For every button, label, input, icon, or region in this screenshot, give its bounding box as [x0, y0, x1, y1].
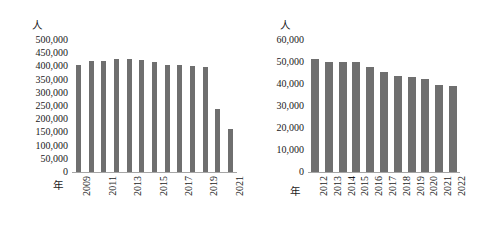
bar [89, 61, 94, 172]
x-tick-label: 2019 [209, 176, 219, 196]
bar [228, 129, 233, 172]
bar [366, 67, 374, 172]
x-tick-label: 2013 [133, 176, 143, 196]
bar [408, 77, 416, 172]
y-tick-label: 50,000 [41, 154, 69, 164]
bar [139, 60, 144, 172]
x-tick-label: 2015 [159, 176, 169, 196]
bar [380, 72, 388, 172]
figure-container: 人 500,000450,000400,000350,000300,000250… [0, 0, 499, 235]
x-tick-label: 2018 [402, 176, 412, 196]
x-tick-label: 2015 [360, 176, 370, 196]
plot-area-right [308, 40, 460, 172]
bar [152, 62, 157, 172]
bar-chart-right: 人 60,00050,00040,00030,00020,00010,0000 … [250, 0, 499, 235]
bar-chart-left: 人 500,000450,000400,000350,000300,000250… [0, 0, 250, 235]
y-axis-tick-labels-right: 60,00050,00040,00030,00020,00010,0000 [250, 0, 304, 235]
bar [165, 65, 170, 172]
bar [339, 62, 347, 172]
x-tick-label: 2021 [235, 176, 245, 196]
bar [177, 65, 182, 172]
x-tick-label: 2017 [184, 176, 194, 196]
x-axis-tick-labels-right: 2012201320142015201620172018201920202021… [308, 176, 460, 226]
y-tick-label: 30,000 [277, 101, 305, 111]
y-tick-label: 60,000 [277, 35, 305, 45]
x-tick-label: 2014 [347, 176, 357, 196]
bar [127, 59, 132, 172]
y-tick-label: 450,000 [36, 48, 69, 58]
y-tick-label: 10,000 [277, 145, 305, 155]
y-tick-label: 0 [299, 167, 304, 177]
x-tick-label: 2011 [108, 176, 118, 196]
y-tick-label: 0 [63, 167, 68, 177]
x-tick-label: 2013 [333, 176, 343, 196]
y-tick-label: 100,000 [36, 141, 69, 151]
bar [449, 86, 457, 172]
y-tick-label: 400,000 [36, 61, 69, 71]
bar [101, 61, 106, 172]
x-axis-line-right [308, 172, 460, 173]
x-tick-label: 2012 [319, 176, 329, 196]
bar [421, 79, 429, 173]
bar [394, 76, 402, 172]
bar [76, 65, 81, 172]
bar [325, 62, 333, 172]
plot-area-left [72, 40, 237, 172]
y-tick-label: 150,000 [36, 127, 69, 137]
y-tick-label: 20,000 [277, 123, 305, 133]
y-tick-label: 250,000 [36, 101, 69, 111]
x-tick-label: 2009 [82, 176, 92, 196]
y-tick-label: 300,000 [36, 88, 69, 98]
y-tick-label: 50,000 [277, 57, 305, 67]
x-tick-label: 2020 [429, 176, 439, 196]
x-axis-tick-labels-left: 2009201120132015201720192021 [72, 176, 237, 226]
x-tick-label: 2019 [416, 176, 426, 196]
x-tick-label: 2017 [388, 176, 398, 196]
x-tick-label: 2022 [457, 176, 467, 196]
x-tick-label: 2016 [374, 176, 384, 196]
x-tick-label: 2021 [443, 176, 453, 196]
bar [215, 109, 220, 172]
bar [114, 59, 119, 172]
y-tick-label: 350,000 [36, 75, 69, 85]
bar [190, 66, 195, 172]
x-axis-name-right: 年 [290, 186, 300, 197]
bar [311, 59, 319, 172]
y-tick-label: 200,000 [36, 114, 69, 124]
bar [352, 62, 360, 172]
x-axis-name-left: 年 [53, 180, 63, 191]
y-axis-tick-labels-left: 500,000450,000400,000350,000300,000250,0… [10, 0, 68, 235]
bar [203, 67, 208, 172]
y-tick-label: 40,000 [277, 79, 305, 89]
y-tick-label: 500,000 [36, 35, 69, 45]
bar [435, 85, 443, 172]
x-axis-line-left [72, 172, 237, 173]
